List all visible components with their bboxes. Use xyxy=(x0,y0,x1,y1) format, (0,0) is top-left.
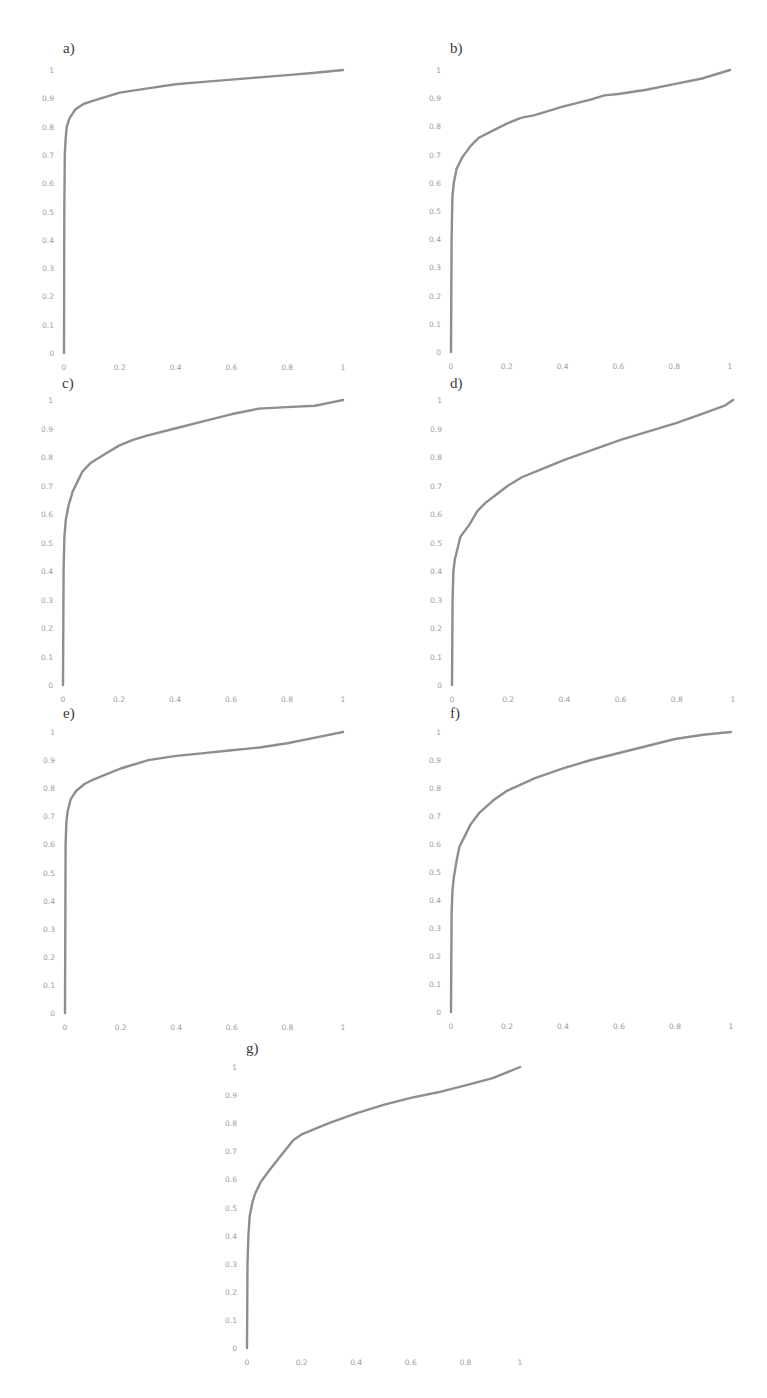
y-tick-label: 0.9 xyxy=(225,1091,237,1100)
panel-label: e) xyxy=(63,705,75,722)
panel-label: d) xyxy=(450,375,463,392)
panel-label: c) xyxy=(62,375,74,392)
y-tick-label: 0.3 xyxy=(225,1260,237,1269)
data-curve xyxy=(247,1067,520,1348)
y-tick-label: 0.7 xyxy=(225,1147,237,1156)
x-tick-label: 0.6 xyxy=(405,1358,417,1367)
x-tick-label: 1 xyxy=(518,1358,523,1367)
panel-label: a) xyxy=(63,40,75,57)
y-tick-label: 0.5 xyxy=(225,1204,237,1213)
panel-label: g) xyxy=(246,1040,259,1057)
x-tick-label: 0 xyxy=(245,1358,250,1367)
y-tick-label: 0.6 xyxy=(225,1175,237,1184)
x-tick-label: 0.8 xyxy=(459,1358,471,1367)
y-tick-label: 0 xyxy=(232,1344,237,1353)
panel-label: b) xyxy=(450,40,463,57)
y-tick-label: 0.1 xyxy=(225,1316,237,1325)
x-tick-label: 0.2 xyxy=(296,1358,308,1367)
y-tick-label: 1 xyxy=(232,1063,237,1072)
x-tick-label: 0.4 xyxy=(350,1358,362,1367)
chart-plot: 00.10.20.30.40.50.60.70.80.9100.20.40.60… xyxy=(0,0,767,1398)
y-tick-label: 0.4 xyxy=(225,1232,237,1241)
panel-label: f) xyxy=(450,705,460,722)
y-tick-label: 0.8 xyxy=(225,1119,237,1128)
y-tick-label: 0.2 xyxy=(225,1288,237,1297)
